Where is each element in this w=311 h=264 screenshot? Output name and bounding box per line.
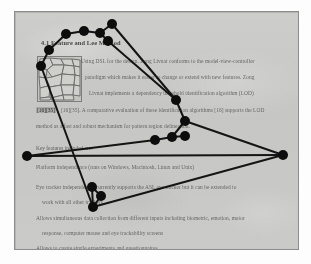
list-item: work with all other trackers xyxy=(42,199,103,205)
section-heading: 4.1 Feature and Lee Method xyxy=(41,39,121,46)
scan-noise xyxy=(16,13,297,248)
list-item: Allows to create single experiments and … xyxy=(36,245,158,250)
list-item: Platform independence (runs on Windows, … xyxy=(36,164,194,170)
body-line: [16][35]. A comparative evaluation of th… xyxy=(61,107,264,113)
voronoi-cell-thumbnail xyxy=(37,56,82,102)
inline-citation: [16][35] xyxy=(36,107,56,113)
list-item: Allows simultaneous data collection from… xyxy=(36,215,245,221)
body-line: Using DSL for the design. Zong Livnat co… xyxy=(81,58,254,64)
features-list-label: Key features included are: xyxy=(36,145,93,151)
page-surface xyxy=(16,13,297,248)
screenshot-canvas: 4.1 Feature and Lee Method xyxy=(0,0,311,264)
list-item: Eye tracker independence: currently supp… xyxy=(36,184,236,190)
scanned-document-page: 4.1 Feature and Lee Method xyxy=(14,11,299,250)
body-line: paradigm which makes it easier to change… xyxy=(85,74,254,80)
body-line: Livnat implements a dependency threshold… xyxy=(89,90,254,96)
body-line: method as a fast and robust mechanism fo… xyxy=(36,123,190,129)
list-item: response, computer mouse and eye trackab… xyxy=(42,230,163,236)
voronoi-pattern-icon xyxy=(38,57,81,101)
